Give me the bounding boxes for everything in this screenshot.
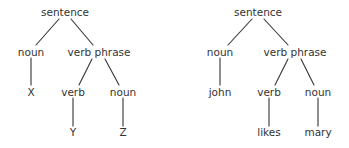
left-node-verb-phrase: verb phrase (68, 46, 131, 58)
edge-right-root-subject (228, 19, 252, 45)
left-leaf-y: Y (70, 126, 76, 138)
edge-left-predicate-verb (79, 59, 92, 85)
left-node-object-noun: noun (110, 86, 136, 98)
right-node-sentence: sentence (234, 6, 282, 18)
diagram-canvas: sentence noun verb phrase X verb noun Y … (0, 0, 349, 148)
left-node-sentence: sentence (41, 6, 89, 18)
right-leaf-likes: likes (257, 126, 280, 138)
edge-left-predicate-object (105, 59, 119, 85)
right-node-object-noun: noun (305, 86, 331, 98)
left-leaf-x: X (27, 86, 34, 98)
edge-right-predicate-object (301, 59, 314, 85)
right-node-verb-phrase: verb phrase (264, 46, 327, 58)
right-node-verb: verb (257, 86, 281, 98)
edge-right-root-predicate (264, 19, 288, 45)
edge-left-root-predicate (71, 19, 93, 45)
right-leaf-mary: mary (304, 126, 331, 138)
left-node-noun: noun (18, 46, 44, 58)
edge-left-root-subject (36, 19, 59, 45)
tree-edges (0, 0, 349, 148)
left-node-verb: verb (61, 86, 85, 98)
right-node-noun: noun (207, 46, 233, 58)
edge-right-predicate-verb (275, 59, 288, 85)
left-leaf-z: Z (119, 126, 126, 138)
right-leaf-john: john (209, 86, 232, 98)
